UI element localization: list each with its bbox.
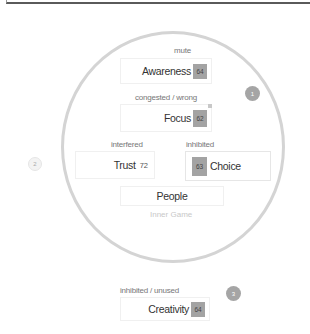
circle-title: Inner Game: [150, 210, 192, 219]
focus-node[interactable]: Focus 62: [120, 104, 212, 132]
awareness-node[interactable]: Awareness 64: [120, 58, 212, 84]
creativity-label: Creativity: [148, 303, 189, 315]
people-node[interactable]: People: [120, 186, 224, 206]
awareness-label: Awareness: [142, 65, 191, 77]
awareness-score: 64: [193, 64, 207, 79]
trust-node[interactable]: Trust 72: [75, 151, 155, 179]
choice-label: Choice: [210, 160, 241, 172]
creativity-node[interactable]: Creativity 64: [120, 297, 210, 321]
choice-status: inhibited: [186, 140, 214, 149]
trust-label: Trust: [114, 159, 136, 171]
trust-score: 72: [140, 161, 148, 170]
people-label: People: [157, 190, 188, 202]
awareness-status: mute: [174, 46, 191, 55]
focus-corner-marker: [208, 104, 212, 108]
focus-label: Focus: [164, 112, 191, 124]
creativity-status: inhibited / unused: [120, 286, 179, 295]
focus-status: congested / wrong: [135, 93, 197, 102]
top-panel: [6, 0, 310, 4]
choice-node[interactable]: 63 Choice: [185, 151, 271, 181]
badge-two[interactable]: 2: [28, 157, 42, 171]
badge-three[interactable]: 3: [226, 286, 241, 301]
focus-score: 62: [193, 110, 207, 127]
choice-score: 63: [192, 157, 207, 176]
creativity-score: 64: [191, 302, 205, 317]
badge-one[interactable]: 1: [245, 86, 260, 101]
trust-status: interfered: [111, 140, 143, 149]
